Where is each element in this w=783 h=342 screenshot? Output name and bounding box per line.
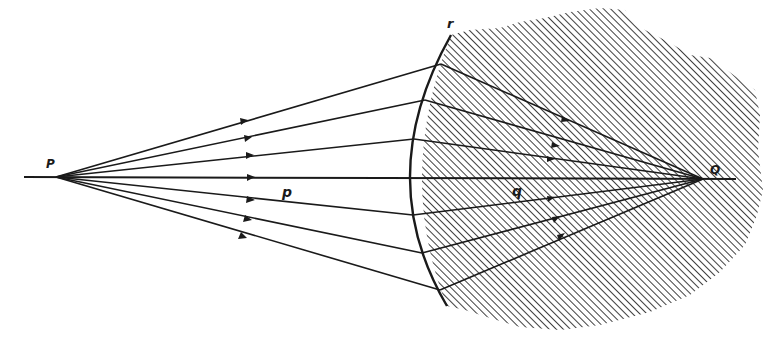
incident-ray <box>56 64 441 177</box>
label-image-distance: q <box>512 183 522 199</box>
label-object-distance: p <box>281 184 292 200</box>
incident-ray <box>56 177 440 290</box>
incident-ray <box>56 177 413 215</box>
label-source-point: P <box>46 157 55 171</box>
label-surface-radius: r <box>447 16 455 31</box>
incident-ray <box>56 100 425 177</box>
refraction-diagram: P p q Q r <box>0 0 783 342</box>
arrowhead-icon <box>247 174 255 181</box>
label-image-point: Q <box>710 163 720 177</box>
incident-ray <box>56 139 414 177</box>
incident-ray <box>56 177 422 253</box>
arrowhead-icon <box>246 152 254 159</box>
